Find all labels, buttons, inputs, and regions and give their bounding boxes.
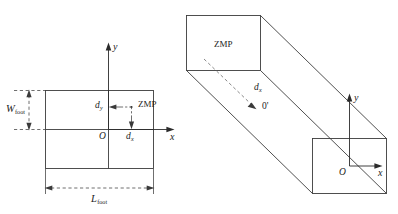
lfoot-subscript: foot <box>97 198 107 205</box>
left-dy-subscript: y <box>100 104 103 111</box>
left-zmp-label: ZMP <box>138 100 157 109</box>
left-dx-label: dx <box>126 132 134 142</box>
right-zmp-offset-dashed-line <box>204 59 252 105</box>
lfoot-label: Lfoot <box>91 194 107 205</box>
left-dx-arrowhead <box>129 122 134 130</box>
right-zmp-label: ZMP <box>214 40 233 49</box>
left-dx-subscript: x <box>131 135 134 142</box>
left-dy-arrowhead <box>109 104 117 109</box>
right-dx-label: dx <box>254 83 262 93</box>
left-origin-label: O <box>99 132 106 142</box>
left-y-axis-label: y <box>113 42 117 52</box>
right-y-axis-label: y <box>354 93 358 103</box>
left-dy-label: dy <box>95 101 103 111</box>
prism-edge-bottom-left <box>187 71 313 194</box>
right-zmp-offset-arrowhead <box>248 103 257 110</box>
left-y-axis-arrowhead <box>106 43 112 51</box>
right-x-axis-label: x <box>378 168 382 178</box>
figure-root: y x O ZMP dy dx Wfoot Lfoot ZMP dx 0' y … <box>0 0 398 214</box>
prism-edge-right <box>261 71 387 194</box>
right-origin-label: O <box>339 168 346 178</box>
diagram-canvas <box>0 0 398 214</box>
wfoot-subscript: foot <box>15 108 25 115</box>
wfoot-label: Wfoot <box>6 104 25 115</box>
prism-edge-top <box>261 16 387 139</box>
left-x-axis-label: x <box>170 132 174 142</box>
lfoot-symbol: L <box>91 193 97 204</box>
right-y-axis-arrowhead <box>347 94 353 102</box>
right-projected-origin-label: 0' <box>262 102 268 112</box>
wfoot-symbol: W <box>6 103 15 114</box>
right-dx-subscript: x <box>259 86 262 93</box>
